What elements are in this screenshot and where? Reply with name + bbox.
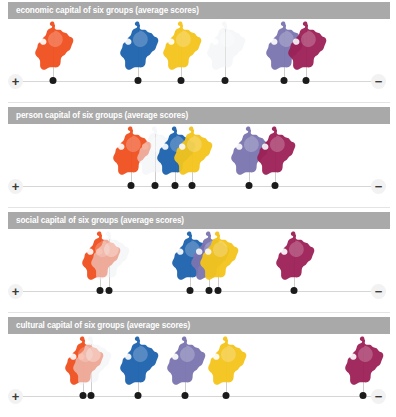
data-point-purple[interactable] (181, 392, 188, 399)
panel-separator (8, 207, 390, 208)
axis-line (22, 81, 374, 82)
data-point-yellow[interactable] (178, 77, 185, 84)
data-point-purple[interactable] (206, 287, 213, 294)
data-point-blue[interactable] (135, 77, 142, 84)
data-point-orange[interactable] (128, 182, 135, 189)
plot-area: +− (0, 124, 396, 204)
plus-icon: + (12, 75, 20, 88)
minus-icon: − (375, 285, 383, 298)
map-marker-yellow[interactable] (195, 231, 241, 283)
plus-icon: + (12, 180, 20, 193)
axis-line (22, 186, 374, 187)
panel-title-bar: social capital of six groups (average sc… (8, 212, 390, 229)
axis-plus-endcap[interactable]: + (8, 179, 23, 194)
panel-title-bar: cultural capital of six groups (average … (8, 317, 390, 334)
panel-title: person capital of six groups (average sc… (8, 111, 188, 120)
data-point-yellow[interactable] (188, 182, 195, 189)
axis-minus-endcap[interactable]: − (371, 284, 386, 299)
map-marker-orange[interactable] (30, 21, 76, 73)
axis-plus-endcap[interactable]: + (8, 74, 23, 89)
data-point-blue[interactable] (135, 392, 142, 399)
panel-1: economic capital of six groups (average … (0, 0, 396, 105)
data-point-magenta[interactable] (290, 287, 297, 294)
panel-title: cultural capital of six groups (average … (8, 321, 190, 330)
panel-2: person capital of six groups (average sc… (0, 105, 396, 210)
data-point-purple[interactable] (280, 77, 287, 84)
panel-title-bar: person capital of six groups (average sc… (8, 107, 390, 124)
data-point-blue[interactable] (187, 287, 194, 294)
data-point-orange[interactable] (79, 392, 86, 399)
panel-4: cultural capital of six groups (average … (0, 315, 396, 417)
map-marker-magenta[interactable] (340, 336, 386, 388)
map-marker-white[interactable] (202, 21, 248, 73)
panel-title: economic capital of six groups (average … (8, 6, 199, 15)
data-point-white[interactable] (221, 77, 228, 84)
data-point-yellow[interactable] (223, 392, 230, 399)
map-marker-yellow[interactable] (158, 21, 204, 73)
data-point-yellow[interactable] (214, 287, 221, 294)
map-marker-magenta[interactable] (271, 231, 317, 283)
minus-icon: − (375, 75, 383, 88)
data-point-blue[interactable] (171, 182, 178, 189)
map-marker-white[interactable] (86, 231, 132, 283)
panel-separator (8, 102, 390, 103)
data-point-white[interactable] (88, 392, 95, 399)
map-marker-yellow[interactable] (169, 126, 215, 178)
data-point-orange[interactable] (50, 77, 57, 84)
axis-minus-endcap[interactable]: − (371, 389, 386, 404)
data-point-magenta[interactable] (271, 182, 278, 189)
data-point-white[interactable] (105, 287, 112, 294)
map-marker-magenta[interactable] (252, 126, 298, 178)
minus-icon: − (375, 390, 383, 403)
panel-title: social capital of six groups (average sc… (8, 216, 184, 225)
map-marker-white[interactable] (68, 336, 114, 388)
map-marker-yellow[interactable] (203, 336, 249, 388)
plus-icon: + (12, 390, 20, 403)
data-point-orange[interactable] (97, 287, 104, 294)
axis-plus-endcap[interactable]: + (8, 284, 23, 299)
map-marker-blue[interactable] (115, 21, 161, 73)
axis-plus-endcap[interactable]: + (8, 389, 23, 404)
plus-icon: + (12, 285, 20, 298)
panel-title-bar: economic capital of six groups (average … (8, 2, 390, 19)
capital-scores-figure: economic capital of six groups (average … (0, 0, 396, 417)
data-point-purple[interactable] (245, 182, 252, 189)
panel-3: social capital of six groups (average sc… (0, 210, 396, 315)
axis-line (22, 291, 374, 292)
axis-minus-endcap[interactable]: − (371, 179, 386, 194)
map-marker-magenta[interactable] (283, 21, 329, 73)
axis-line (22, 396, 374, 397)
panel-separator (8, 312, 390, 313)
plot-area: +− (0, 334, 396, 414)
data-point-magenta[interactable] (302, 77, 309, 84)
data-point-magenta[interactable] (360, 392, 367, 399)
data-point-white[interactable] (152, 182, 159, 189)
plot-area: +− (0, 229, 396, 309)
minus-icon: − (375, 180, 383, 193)
map-marker-purple[interactable] (162, 336, 208, 388)
plot-area: +− (0, 19, 396, 99)
axis-minus-endcap[interactable]: − (371, 74, 386, 89)
map-marker-blue[interactable] (115, 336, 161, 388)
